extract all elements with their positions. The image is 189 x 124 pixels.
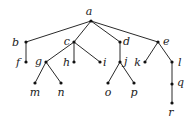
edge-c-i: [74, 42, 100, 62]
node-f: [24, 60, 27, 63]
node-label-i: i: [103, 56, 107, 69]
node-e: [156, 40, 159, 43]
node-i: [98, 60, 101, 63]
node-label-o: o: [105, 86, 112, 99]
node-label-a: a: [86, 5, 93, 18]
node-label-m: m: [30, 86, 40, 99]
node-label-e: e: [163, 35, 170, 48]
node-m: [33, 81, 36, 84]
node-r: [170, 101, 173, 104]
edge-a-d: [91, 21, 120, 42]
node-label-f: f: [15, 56, 22, 69]
node-c: [72, 40, 75, 43]
edge-g-n: [46, 62, 61, 83]
node-label-g: g: [35, 55, 42, 68]
node-label-k: k: [134, 56, 141, 69]
node-label-p: p: [130, 86, 137, 99]
node-k: [143, 60, 146, 63]
node-g: [44, 60, 47, 63]
edge-a-b: [26, 21, 91, 42]
node-q: [170, 82, 173, 85]
edge-j-o: [108, 62, 120, 83]
edge-e-k: [145, 42, 158, 62]
node-label-j: j: [121, 55, 128, 68]
node-o: [106, 81, 109, 84]
tree-diagram: abcdefghijklmnopqr: [0, 0, 189, 124]
node-label-h: h: [63, 56, 70, 69]
node-a: [89, 19, 92, 22]
node-b: [24, 40, 27, 43]
node-p: [132, 81, 135, 84]
node-l: [170, 60, 173, 63]
node-label-r: r: [168, 106, 174, 119]
node-j: [118, 60, 121, 63]
node-label-b: b: [12, 36, 19, 49]
node-label-l: l: [178, 56, 182, 69]
node-n: [59, 81, 62, 84]
node-label-d: d: [123, 35, 130, 48]
node-h: [72, 60, 75, 63]
node-label-n: n: [57, 86, 64, 99]
tree-nodes: [24, 19, 173, 104]
node-label-q: q: [177, 76, 184, 89]
node-label-c: c: [64, 35, 70, 48]
tree-labels: abcdefghijklmnopqr: [12, 5, 184, 119]
node-d: [118, 40, 121, 43]
